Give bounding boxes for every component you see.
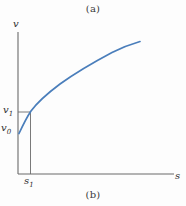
v1-tick-label: v1	[3, 104, 13, 118]
s1-tick-label: s1	[24, 175, 34, 189]
v0-subscript: 0	[7, 128, 11, 136]
caption-b: (b)	[0, 189, 186, 200]
velocity-curve	[19, 42, 140, 134]
v0-tick-label: v0	[1, 122, 11, 136]
v1-subscript: 1	[9, 110, 13, 118]
x-axis-label: s	[175, 170, 180, 181]
figure-container: (a) v s v1 v0 s1 (b)	[0, 0, 186, 206]
s1-subscript: 1	[29, 181, 33, 189]
y-axis-label: v	[13, 18, 19, 29]
